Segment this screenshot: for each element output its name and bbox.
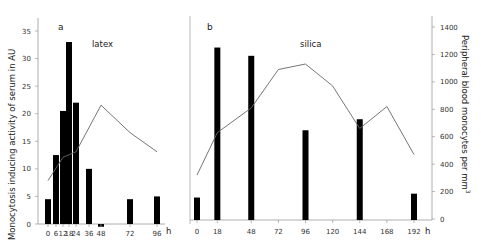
bar	[303, 130, 309, 220]
monocytosis-chart: 05101520253035 0200400600800100012001400…	[0, 0, 481, 246]
left-tick-label: 10	[22, 165, 31, 173]
x-tick-label: 72	[126, 230, 135, 238]
right-y-ticks: 0200400600800100012001400	[432, 24, 458, 224]
x-tick-label: 192	[407, 228, 420, 236]
right-tick-label: 800	[440, 106, 453, 114]
bar	[60, 111, 66, 224]
bar	[86, 169, 92, 224]
right-tick-label: 1000	[440, 78, 458, 86]
x-tick-label: 72	[274, 228, 283, 236]
bar	[194, 198, 200, 220]
right-tick-label: 400	[440, 161, 453, 169]
x-unit-a: h	[166, 226, 171, 236]
left-axis-title: Monocytosis inducing activity of serum i…	[7, 49, 17, 240]
x-tick-label: 48	[97, 230, 106, 238]
x-tick-label: 36	[85, 230, 94, 238]
bar	[66, 42, 72, 224]
x-tick-label: 120	[326, 228, 339, 236]
x-ticks-panel-b: 018487296120144168192	[195, 220, 421, 236]
left-tick-label: 20	[22, 110, 31, 118]
x-tick-label: 18	[213, 228, 222, 236]
right-axis-title-sup: 3	[465, 190, 472, 194]
right-tick-label: 200	[440, 188, 453, 196]
bar	[411, 194, 417, 220]
bar	[357, 119, 363, 220]
bars-panel-b	[194, 48, 417, 220]
left-y-ticks: 05101520253035	[22, 28, 38, 229]
bar	[127, 199, 133, 224]
bar	[248, 56, 254, 220]
x-unit-b: h	[425, 226, 430, 236]
x-tick-label: 168	[380, 228, 393, 236]
left-tick-label: 35	[22, 28, 31, 36]
x-tick-label: 48	[247, 228, 256, 236]
left-tick-label: 0	[27, 221, 31, 229]
right-tick-label: 1200	[440, 51, 458, 59]
right-tick-label: 1400	[440, 24, 458, 32]
right-axis-title-text: Peripheral blood monocytes per mm	[460, 35, 470, 190]
panel-b-label: b	[207, 22, 213, 32]
x-tick-label: 96	[301, 228, 310, 236]
silica-label: silica	[300, 39, 321, 49]
x-tick-label: 0	[195, 228, 199, 236]
x-tick-label: 96	[153, 230, 162, 238]
bar	[214, 48, 220, 220]
bar	[73, 103, 79, 224]
bar	[154, 196, 160, 224]
x-tick-label: 0	[46, 230, 50, 238]
bars-panel-a	[45, 42, 160, 227]
x-tick-label: 24	[72, 230, 81, 238]
right-tick-label: 0	[440, 216, 444, 224]
latex-label: latex	[92, 39, 113, 49]
left-tick-label: 15	[22, 138, 31, 146]
x-tick-label: 144	[353, 228, 367, 236]
right-tick-label: 600	[440, 133, 453, 141]
bar	[45, 199, 51, 224]
left-tick-label: 30	[22, 55, 31, 63]
left-tick-label: 25	[22, 83, 31, 91]
left-tick-label: 5	[27, 193, 31, 201]
right-axis-title: Peripheral blood monocytes per mm3	[460, 35, 472, 194]
panel-a-label: a	[58, 22, 64, 32]
